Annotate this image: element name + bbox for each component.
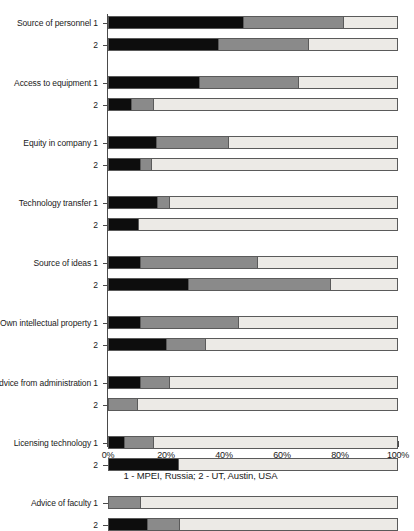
bar-segment-2: [109, 399, 138, 410]
category-label: Source of personnel 1: [17, 18, 98, 28]
bar-segment-2: [132, 99, 154, 110]
bar-segment-2: [141, 257, 258, 268]
bar: [108, 256, 398, 269]
bar-segment-2: [141, 377, 170, 388]
bar-segment-2: [141, 317, 240, 328]
category-label: Source of ideas 1: [34, 258, 98, 268]
bar-segment-2: [244, 17, 344, 28]
category-label: Equity in company 1: [23, 138, 98, 148]
bar-segment-1: [109, 77, 200, 88]
category-label: Advice from administration 1: [0, 378, 98, 388]
bar: [108, 136, 398, 149]
bar: [108, 376, 398, 389]
category-label: Own intellectual property 1: [0, 318, 98, 328]
bar: [108, 316, 398, 329]
bar-segment-1: [109, 459, 179, 470]
series-label: 2: [93, 340, 98, 350]
bar: [108, 98, 398, 111]
bar-segment-2: [219, 39, 309, 50]
series-label: 2: [93, 400, 98, 410]
bar-segment-2: [157, 137, 230, 148]
bar: [108, 398, 398, 411]
bar-segment-1: [109, 317, 141, 328]
bar: [108, 76, 398, 89]
bar: [108, 338, 398, 351]
bar: [108, 158, 398, 171]
bar-segment-2: [200, 77, 299, 88]
bar-segment-1: [109, 197, 158, 208]
category-label: Technology transfer 1: [19, 198, 98, 208]
bar: [108, 278, 398, 291]
bar-segment-2: [189, 279, 331, 290]
series-label: 2: [93, 460, 98, 470]
bar-segment-2: [125, 437, 154, 448]
bar: [108, 16, 398, 29]
bar-segment-2: [109, 497, 141, 508]
category-label: Access to equipment 1: [14, 78, 98, 88]
bar-segment-2: [158, 197, 170, 208]
bar-segment-1: [109, 219, 139, 230]
bar-segment-1: [109, 159, 141, 170]
series-label: 2: [93, 220, 98, 230]
bar-segment-2: [167, 339, 206, 350]
chart-caption: 1 - MPEI, Russia; 2 - UT, Austin, USA: [0, 470, 401, 481]
bar-segment-1: [109, 339, 167, 350]
series-label: 2: [93, 520, 98, 530]
series-label: 2: [93, 100, 98, 110]
bar-segment-1: [109, 257, 141, 268]
category-label: Advice of faculty 1: [31, 498, 98, 508]
bar-segment-1: [109, 99, 132, 110]
bar-segment-1: [109, 377, 141, 388]
bar: [108, 518, 398, 531]
bar-segment-1: [109, 279, 189, 290]
bar-segment-2: [141, 159, 153, 170]
bar-segment-2: [148, 519, 180, 530]
bar-segment-1: [109, 437, 125, 448]
series-label: 2: [93, 160, 98, 170]
bar: [108, 496, 398, 509]
bar: [108, 38, 398, 51]
series-label: 2: [93, 280, 98, 290]
category-label: Licensing technology 1: [14, 438, 98, 448]
bar: [108, 196, 398, 209]
bar-segment-1: [109, 17, 244, 28]
bar-segment-1: [109, 519, 148, 530]
x-tick: [398, 441, 399, 447]
bar: [108, 436, 398, 449]
bar: [108, 218, 398, 231]
series-label: 2: [93, 40, 98, 50]
bar-segment-1: [109, 39, 219, 50]
bar-segment-1: [109, 137, 157, 148]
